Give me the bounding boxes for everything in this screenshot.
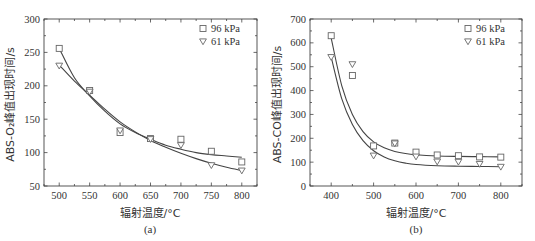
y-axis-title: ABS-CO峰值出现时间/s [270, 45, 284, 163]
figure: 50055060065070075080050100150200250300辐射… [0, 0, 535, 241]
y-tick-label: 200 [290, 133, 306, 144]
legend-square-icon [200, 26, 206, 32]
x-tick-label: 650 [143, 190, 159, 201]
y-tick-label: 500 [290, 61, 306, 72]
y-tick-label: 50 [30, 181, 41, 192]
triangle-marker-icon [178, 143, 185, 149]
square-marker-icon [178, 136, 184, 142]
y-axis-title: ABS-O₂峰值出现时间/s [3, 47, 17, 162]
square-marker-icon [455, 153, 461, 159]
triangle-marker-icon [413, 154, 420, 160]
chart-b: 4005006007008000100200300400500600700辐射温… [270, 14, 522, 237]
triangle-marker-icon [434, 159, 441, 165]
x-tick-label: 700 [173, 190, 189, 201]
fit-curve-96kpa [331, 38, 501, 157]
legend-label-96kpa: 96 kPa [211, 23, 240, 34]
y-tick-label: 600 [290, 37, 306, 48]
square-marker-icon [239, 159, 245, 165]
square-marker-icon [371, 143, 377, 149]
y-tick-label: 200 [24, 80, 40, 91]
square-marker-icon [328, 33, 334, 39]
triangle-marker-icon [238, 168, 245, 174]
y-tick-label: 400 [290, 85, 306, 96]
y-tick-label: 100 [24, 147, 40, 158]
y-tick-label: 0 [301, 181, 306, 192]
x-tick-label: 600 [112, 190, 128, 201]
triangle-marker-icon [349, 62, 356, 68]
legend-triangle-icon [465, 39, 472, 45]
x-tick-label: 800 [234, 190, 250, 201]
square-marker-icon [477, 154, 483, 160]
y-tick-label: 300 [290, 109, 306, 120]
chart-caption: (b) [410, 223, 423, 236]
legend-square-icon [465, 26, 471, 32]
triangle-marker-icon [370, 153, 377, 159]
x-tick-label: 600 [408, 190, 424, 201]
x-tick-label: 700 [451, 190, 467, 201]
x-tick-label: 550 [82, 190, 98, 201]
triangle-marker-icon [328, 55, 335, 61]
x-tick-label: 750 [203, 190, 219, 201]
square-marker-icon [498, 154, 504, 160]
y-tick-label: 700 [290, 14, 306, 25]
legend-label-96kpa: 96 kPa [476, 23, 505, 34]
x-tick-label: 500 [51, 190, 67, 201]
square-marker-icon [349, 73, 355, 79]
x-tick-label: 400 [323, 190, 339, 201]
legend-label-61kpa: 61 kPa [476, 36, 505, 47]
triangle-marker-icon [208, 163, 215, 169]
x-axis-title: 辐射温度/°C [120, 206, 181, 220]
square-marker-icon [208, 148, 214, 154]
x-tick-label: 800 [493, 190, 509, 201]
chart-caption: (a) [144, 223, 157, 236]
square-marker-icon [56, 45, 62, 51]
triangle-marker-icon [455, 159, 462, 165]
x-axis-title: 辐射温度/°C [386, 206, 447, 220]
y-tick-label: 300 [24, 14, 40, 25]
square-marker-icon [434, 152, 440, 158]
x-tick-label: 500 [366, 190, 382, 201]
chart-a: 50055060065070075080050100150200250300辐射… [3, 14, 257, 237]
triangle-marker-icon [497, 164, 504, 170]
y-tick-label: 150 [24, 114, 40, 125]
legend-triangle-icon [200, 39, 207, 45]
y-tick-label: 100 [290, 157, 306, 168]
legend-label-61kpa: 61 kPa [211, 36, 240, 47]
y-tick-label: 250 [24, 47, 40, 58]
